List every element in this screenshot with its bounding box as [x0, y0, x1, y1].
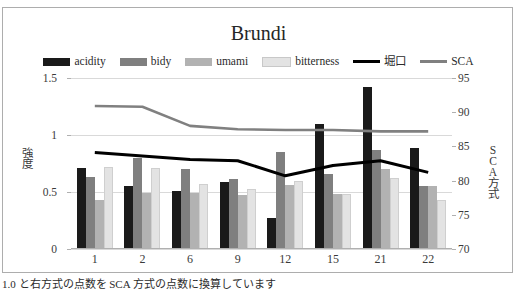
legend-swatch-umami [185, 58, 212, 66]
legend-item-SCA[interactable]: SCA [420, 55, 473, 68]
top-cropped-text [0, 0, 518, 6]
y-tick-right: 90 [458, 106, 498, 118]
x-axis-label: 2 [119, 252, 167, 266]
legend-item-umami[interactable]: umami [185, 55, 248, 68]
line-series-layer [71, 78, 452, 249]
legend-label: SCA [451, 55, 473, 68]
legend-label: bidy [151, 55, 171, 68]
y-tick-mark-right [452, 181, 456, 182]
y-tick-mark-left [67, 135, 71, 136]
y-tick-right: 70 [458, 243, 498, 255]
chart-legend: aciditybidyumamibitterness堀口SCA [3, 55, 514, 68]
x-axis-label: 21 [357, 252, 405, 266]
y-tick-mark-left [67, 249, 71, 250]
y-tick-left: 1.5 [17, 72, 57, 84]
x-axis-labels: 126912152122 [71, 252, 452, 266]
legend-label: 堀口 [384, 55, 406, 68]
y-tick-mark-right [452, 215, 456, 216]
legend-line-SCA [420, 60, 447, 63]
line-series-SCA[interactable] [95, 106, 428, 131]
legend-item-bidy[interactable]: bidy [120, 55, 171, 68]
y-tick-right: 85 [458, 140, 498, 152]
x-axis-label: 22 [404, 252, 452, 266]
legend-label: umami [216, 55, 248, 68]
legend-label: bitterness [295, 55, 339, 68]
y-tick-mark-right [452, 146, 456, 147]
y-tick-right: 80 [458, 175, 498, 187]
chart-frame: Brundi aciditybidyumamibitterness堀口SCA 強… [2, 7, 513, 273]
y-tick-left: 0 [17, 243, 57, 255]
chart-title: Brundi [3, 22, 514, 44]
x-axis-label: 15 [309, 252, 357, 266]
legend-label: acidity [74, 55, 105, 68]
y-tick-right: 75 [458, 209, 498, 221]
y-tick-left: 0.5 [17, 186, 57, 198]
x-axis-label: 12 [262, 252, 310, 266]
legend-item-bitterness[interactable]: bitterness [262, 55, 339, 68]
x-axis-label: 1 [71, 252, 119, 266]
x-axis-label: 9 [214, 252, 262, 266]
y-axis-left-title: 強度 [19, 147, 35, 169]
legend-swatch-bidy [120, 58, 147, 66]
y-tick-left: 1 [17, 129, 57, 141]
y-tick-mark-left [67, 192, 71, 193]
legend-swatch-acidity [43, 58, 70, 66]
legend-item-堀口[interactable]: 堀口 [353, 55, 406, 68]
y-tick-mark-left [67, 78, 71, 79]
y-tick-mark-right [452, 249, 456, 250]
legend-item-acidity[interactable]: acidity [43, 55, 105, 68]
legend-swatch-bitterness [262, 57, 291, 67]
y-tick-mark-right [452, 112, 456, 113]
figure-caption: 1.0 と右方式の点数を SCA 方式の点数に換算しています [2, 278, 512, 292]
chart-page: Brundi aciditybidyumamibitterness堀口SCA 強… [0, 0, 518, 298]
y-tick-right: 95 [458, 72, 498, 84]
gridline [71, 249, 452, 250]
plot-area [71, 78, 452, 249]
x-axis-line [71, 248, 452, 249]
x-axis-label: 6 [166, 252, 214, 266]
line-series-堀口[interactable] [95, 153, 428, 176]
legend-line-堀口 [353, 60, 380, 63]
y-tick-mark-right [452, 78, 456, 79]
